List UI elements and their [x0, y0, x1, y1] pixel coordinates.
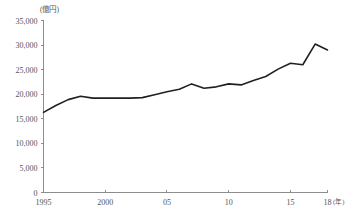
chart-container: 05,00010,00015,00020,00025,00030,00035,0…	[0, 0, 357, 217]
data-series-line	[44, 44, 328, 112]
y-axis-tick-label: 30,000	[16, 41, 38, 50]
y-axis-tick-label: 10,000	[16, 139, 38, 148]
x-axis-unit-label: (年)	[333, 197, 344, 206]
x-axis-tick-label: 10	[225, 198, 233, 207]
y-axis-tick-label: 35,000	[16, 17, 38, 26]
x-axis-tick-label: 15	[286, 198, 294, 207]
y-axis-tick-label: 0	[34, 189, 38, 198]
y-axis-tick-label: 20,000	[16, 90, 38, 99]
y-axis-tick-label: 25,000	[16, 66, 38, 75]
x-axis-tick-label: 18	[324, 198, 332, 207]
line-chart: 05,00010,00015,00020,00025,00030,00035,0…	[0, 0, 357, 217]
y-axis-unit-label: (億円)	[40, 4, 59, 14]
x-axis-tick-label: 1995	[36, 198, 52, 207]
y-axis-tick-label: 5,000	[20, 164, 38, 173]
x-axis-tick-labels: 1995200005101518	[36, 198, 332, 207]
x-axis-tick-label: 05	[163, 198, 171, 207]
y-axis-tick-labels: 05,00010,00015,00020,00025,00030,00035,0…	[16, 17, 38, 198]
x-axis-tick-label: 2000	[97, 198, 113, 207]
y-axis-tick-label: 15,000	[16, 115, 38, 124]
